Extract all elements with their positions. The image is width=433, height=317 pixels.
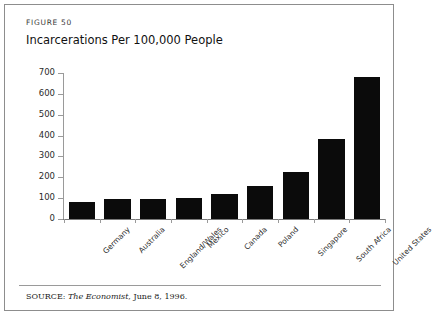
bar xyxy=(247,186,273,219)
x-axis-tick xyxy=(278,219,279,223)
x-axis-label: Poland xyxy=(276,225,300,249)
figure-title: Incarcerations Per 100,000 People xyxy=(26,33,223,47)
y-axis-tick-label: 600 xyxy=(39,88,55,98)
source-rest: , June 8, 1996. xyxy=(128,292,187,301)
y-axis-tick-label: 400 xyxy=(39,130,55,140)
y-axis-tick xyxy=(58,156,63,157)
bar xyxy=(104,199,130,219)
x-axis-tick xyxy=(100,219,101,223)
bar xyxy=(283,172,309,219)
bar xyxy=(354,77,380,219)
x-axis-line xyxy=(63,219,385,220)
y-axis-tick xyxy=(58,198,63,199)
x-axis-label: Germany xyxy=(101,225,132,256)
x-axis-tick xyxy=(207,219,208,223)
y-axis-tick xyxy=(58,115,63,116)
source-note: SOURCE: The Economist, June 8, 1996. xyxy=(26,292,187,301)
chart-plot-area: 0100200300400500600700 GermanyAustraliaE… xyxy=(63,73,385,219)
source-prefix: SOURCE: xyxy=(26,292,65,301)
x-axis-tick xyxy=(171,219,172,223)
y-axis-tick xyxy=(58,219,63,220)
x-axis-tick xyxy=(385,219,386,223)
bar-series xyxy=(64,73,385,219)
y-axis-tick xyxy=(58,94,63,95)
x-axis-tick xyxy=(135,219,136,223)
figure-number-label: FIGURE 50 xyxy=(26,18,72,27)
y-axis-tick-label: 300 xyxy=(39,150,55,160)
x-axis-label: United States xyxy=(391,225,433,267)
bar xyxy=(318,139,344,219)
x-axis-label: Singapore xyxy=(316,225,349,258)
source-publication: The Economist xyxy=(68,292,128,301)
y-axis-tick-label: 0 xyxy=(50,213,55,223)
x-axis-tick xyxy=(314,219,315,223)
x-axis-tick xyxy=(64,219,65,223)
bar xyxy=(140,199,166,219)
bar xyxy=(176,198,202,219)
x-axis-label: South Africa xyxy=(354,225,393,264)
y-axis-tick-label: 700 xyxy=(39,67,55,77)
x-axis-tick xyxy=(349,219,350,223)
y-axis-tick xyxy=(58,73,63,74)
x-axis-tick xyxy=(242,219,243,223)
x-axis-label: Canada xyxy=(242,225,269,252)
y-axis-tick-label: 200 xyxy=(39,171,55,181)
bar xyxy=(211,194,237,219)
source-divider xyxy=(19,285,381,286)
x-axis-label: Australia xyxy=(136,225,166,255)
y-axis-tick xyxy=(58,177,63,178)
bar xyxy=(69,202,95,219)
y-axis-tick xyxy=(58,136,63,137)
y-axis-tick-label: 500 xyxy=(39,109,55,119)
figure-frame: FIGURE 50 Incarcerations Per 100,000 Peo… xyxy=(4,4,394,311)
y-axis-tick-label: 100 xyxy=(39,192,55,202)
